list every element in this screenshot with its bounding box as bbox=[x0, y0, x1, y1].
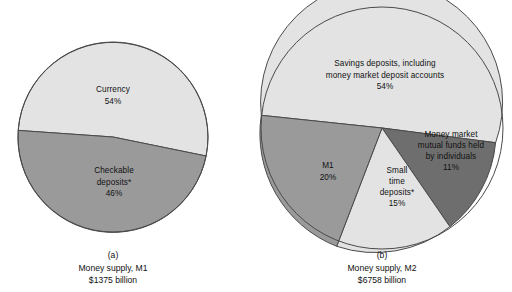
pie-b-caption-amount: $6758 billion bbox=[312, 274, 452, 286]
pie-b-caption: (b) Money supply, M2 $6758 billion bbox=[312, 249, 452, 286]
pie-a-caption: (a) Money supply, M1 $1375 billion bbox=[43, 249, 183, 286]
pie-a-caption-title: Money supply, M1 bbox=[43, 262, 183, 274]
pie-b-caption-id: (b) bbox=[312, 249, 452, 261]
pie-a-caption-amount: $1375 billion bbox=[43, 274, 183, 286]
pie-a-caption-id: (a) bbox=[43, 249, 183, 261]
pie-b-caption-title: Money supply, M2 bbox=[312, 262, 452, 274]
money-supply-pie-figure: Currency 54% Checkable deposits* 46% (a)… bbox=[0, 0, 512, 292]
